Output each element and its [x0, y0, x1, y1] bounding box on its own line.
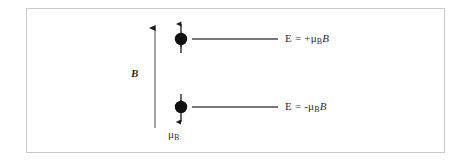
upper-energy-equals: = — [295, 32, 301, 44]
magnetic-moment-axis-label: μB — [168, 129, 179, 142]
lower-state-group — [175, 94, 278, 122]
upper-state-group — [175, 24, 278, 53]
upper-energy-label: E = +μBB — [285, 33, 329, 46]
lower-energy-field: B — [320, 100, 327, 112]
upper-energy-field: B — [322, 32, 329, 44]
upper-energy-symbol: E — [285, 32, 292, 44]
lower-energy-label: E = -μBB — [285, 101, 327, 114]
lower-energy-symbol: E — [285, 100, 292, 112]
lower-energy-equals: = — [295, 100, 301, 112]
lower-particle-dot — [175, 101, 187, 113]
b-field-label: B — [131, 68, 138, 79]
mu-subscript: B — [174, 133, 179, 142]
figure-root: B μB E = +μBB E = -μBB — [0, 0, 468, 167]
upper-particle-dot — [175, 33, 187, 45]
diagram-canvas — [0, 0, 468, 167]
